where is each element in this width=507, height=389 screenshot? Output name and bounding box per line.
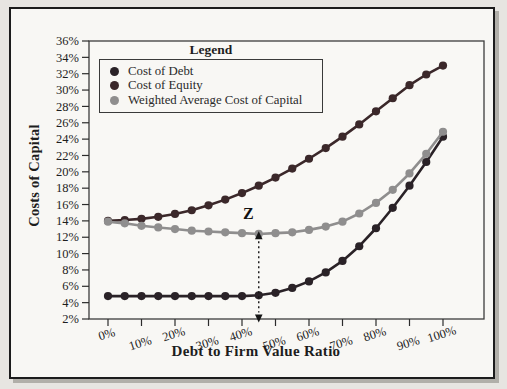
data-point-cost-of-debt: [221, 292, 229, 300]
data-point-cost-of-debt: [305, 277, 313, 285]
data-point-cost-of-equity: [405, 81, 413, 89]
legend-item-label: Cost of Equity: [128, 78, 203, 93]
data-point-weighted-average-cost-of-capital: [121, 219, 129, 227]
data-point-cost-of-debt: [238, 292, 246, 300]
data-point-weighted-average-cost-of-capital: [322, 223, 330, 231]
data-point-weighted-average-cost-of-capital: [137, 222, 145, 230]
data-point-cost-of-equity: [238, 189, 246, 197]
y-tick-label: 20%: [56, 165, 79, 179]
data-point-weighted-average-cost-of-capital: [405, 169, 413, 177]
x-tick-label: 100%: [426, 323, 458, 345]
data-point-weighted-average-cost-of-capital: [355, 209, 363, 217]
data-point-cost-of-equity: [422, 70, 430, 78]
legend-dot-icon: [110, 96, 119, 105]
data-point-cost-of-equity: [154, 213, 162, 221]
data-point-weighted-average-cost-of-capital: [171, 225, 179, 233]
y-tick-label: 34%: [56, 51, 79, 65]
data-point-weighted-average-cost-of-capital: [338, 218, 346, 226]
data-point-cost-of-debt: [188, 292, 196, 300]
legend-dot-icon: [110, 81, 119, 90]
data-point-weighted-average-cost-of-capital: [204, 227, 212, 235]
data-point-cost-of-debt: [322, 268, 330, 276]
page: { "figure": { "y_axis_title": "Costs of …: [0, 0, 507, 389]
data-point-cost-of-equity: [355, 120, 363, 128]
figure-frame: 36%34%32%30%28%26%24%22%20%18%16%14%12%1…: [9, 7, 495, 379]
legend-item-label: Weighted Average Cost of Capital: [128, 93, 302, 108]
legend: Legend Cost of DebtCost of EquityWeighte…: [99, 42, 323, 113]
data-point-weighted-average-cost-of-capital: [389, 186, 397, 194]
data-point-cost-of-debt: [338, 257, 346, 265]
data-point-cost-of-debt: [121, 292, 129, 300]
y-tick-label: 18%: [56, 181, 79, 195]
data-point-cost-of-equity: [439, 61, 447, 69]
y-tick-label: 10%: [56, 247, 79, 261]
data-point-cost-of-debt: [104, 292, 112, 300]
data-point-weighted-average-cost-of-capital: [271, 229, 279, 237]
data-point-cost-of-debt: [355, 242, 363, 250]
data-point-weighted-average-cost-of-capital: [154, 223, 162, 231]
x-tick-label: 60%: [295, 324, 321, 344]
data-point-cost-of-equity: [305, 155, 313, 163]
data-point-cost-of-equity: [204, 201, 212, 209]
x-tick-label: 40%: [228, 324, 254, 344]
data-point-weighted-average-cost-of-capital: [238, 229, 246, 237]
y-tick-label: 14%: [56, 214, 79, 228]
data-point-weighted-average-cost-of-capital: [104, 218, 112, 226]
y-tick-label: 4%: [62, 296, 79, 310]
data-point-cost-of-equity: [271, 173, 279, 181]
data-point-cost-of-debt: [171, 292, 179, 300]
data-point-cost-of-equity: [322, 144, 330, 152]
data-point-cost-of-equity: [338, 133, 346, 141]
y-tick-label: 26%: [56, 116, 79, 130]
x-tick-label: 0%: [97, 325, 117, 343]
data-point-cost-of-debt: [405, 182, 413, 190]
y-tick-label: 8%: [62, 263, 79, 277]
data-point-weighted-average-cost-of-capital: [439, 128, 447, 136]
data-point-cost-of-debt: [389, 204, 397, 212]
legend-dot-icon: [110, 67, 119, 76]
data-point-cost-of-equity: [171, 210, 179, 218]
data-point-cost-of-debt: [271, 289, 279, 297]
data-point-cost-of-equity: [372, 107, 380, 115]
y-tick-label: 6%: [62, 279, 79, 293]
legend-item-weighted-average-cost-of-capital: Weighted Average Cost of Capital: [110, 93, 316, 108]
legend-item-cost-of-debt: Cost of Debt: [110, 64, 316, 79]
data-point-cost-of-debt: [204, 292, 212, 300]
legend-item-label: Cost of Debt: [128, 64, 193, 79]
z-annotation-label: Z: [243, 205, 254, 222]
data-point-weighted-average-cost-of-capital: [372, 199, 380, 207]
data-point-cost-of-debt: [372, 224, 380, 232]
data-point-cost-of-debt: [288, 284, 296, 292]
y-tick-label: 24%: [56, 132, 79, 146]
y-tick-label: 12%: [56, 230, 79, 244]
data-point-weighted-average-cost-of-capital: [288, 228, 296, 236]
data-point-cost-of-equity: [389, 94, 397, 102]
x-tick-label: 20%: [161, 324, 187, 344]
y-axis-title: Costs of Capital: [26, 117, 43, 235]
data-point-weighted-average-cost-of-capital: [188, 227, 196, 235]
data-point-cost-of-equity: [255, 182, 263, 190]
y-tick-label: 30%: [56, 83, 79, 97]
data-point-cost-of-equity: [288, 164, 296, 172]
data-point-weighted-average-cost-of-capital: [422, 150, 430, 158]
legend-box: Cost of DebtCost of EquityWeighted Avera…: [99, 59, 323, 113]
y-tick-label: 16%: [56, 198, 79, 212]
data-point-weighted-average-cost-of-capital: [221, 228, 229, 236]
data-point-weighted-average-cost-of-capital: [305, 226, 313, 234]
data-point-cost-of-debt: [137, 292, 145, 300]
data-point-cost-of-debt: [154, 292, 162, 300]
y-tick-label: 32%: [56, 67, 79, 81]
x-tick-label: 80%: [362, 324, 388, 344]
legend-item-cost-of-equity: Cost of Equity: [110, 79, 316, 94]
data-point-cost-of-equity: [188, 206, 196, 214]
y-tick-label: 22%: [56, 149, 79, 163]
y-tick-label: 36%: [56, 34, 79, 48]
x-axis-title: Debt to Firm Value Ratio: [106, 343, 406, 360]
y-tick-label: 2%: [62, 312, 79, 326]
legend-title: Legend: [99, 42, 323, 58]
data-point-cost-of-equity: [221, 196, 229, 204]
y-tick-label: 28%: [56, 100, 79, 114]
